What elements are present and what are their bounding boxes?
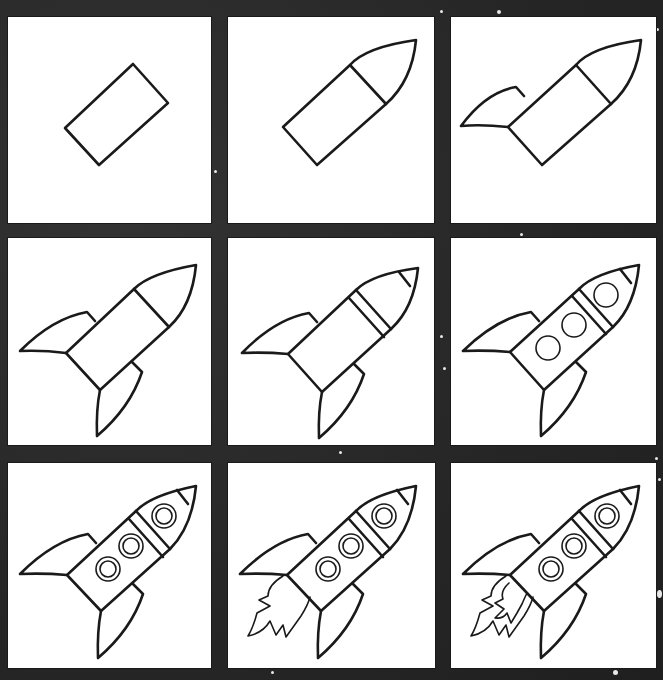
star bbox=[443, 367, 446, 370]
star bbox=[440, 335, 443, 338]
rocket-step-3-drawing bbox=[451, 17, 656, 223]
star bbox=[440, 10, 443, 13]
star bbox=[658, 478, 661, 481]
step-panel-8: Step 8 bbox=[228, 463, 435, 668]
rocket-step-9-drawing bbox=[451, 463, 656, 668]
step-panel-2: Step 2 bbox=[228, 17, 434, 223]
star bbox=[271, 671, 274, 674]
rocket-step-5-drawing bbox=[228, 238, 434, 445]
star bbox=[657, 590, 662, 598]
step-panel-5: Step 5 bbox=[228, 238, 434, 445]
step-panel-4: Step 4 bbox=[8, 238, 211, 445]
rocket-step-7-drawing bbox=[8, 463, 211, 668]
star bbox=[613, 670, 618, 675]
rocket-step-6-drawing bbox=[451, 238, 656, 445]
star bbox=[339, 451, 342, 454]
rocket-step-4-drawing bbox=[8, 238, 211, 445]
step-panel-1: Step 1 bbox=[8, 17, 211, 223]
rocket-step-8-drawing bbox=[228, 463, 435, 668]
step-panel-9: Step 9 bbox=[451, 463, 656, 668]
rocket-step-1-drawing bbox=[8, 17, 211, 223]
step-panel-6: Step 6 bbox=[451, 238, 656, 445]
star bbox=[655, 457, 658, 460]
star bbox=[520, 233, 523, 236]
star bbox=[497, 10, 501, 14]
star bbox=[656, 28, 659, 31]
star bbox=[214, 170, 217, 173]
step-panel-7: Step 7 bbox=[8, 463, 211, 668]
rocket-step-2-drawing bbox=[228, 17, 434, 223]
step-panel-3: Step 3 bbox=[451, 17, 656, 223]
